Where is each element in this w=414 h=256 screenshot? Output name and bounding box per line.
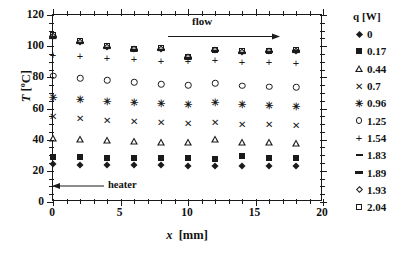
x-axis-tick-minor [283,199,284,204]
y-axis-tick-minor [49,93,54,94]
legend-item[interactable]: 1.89 [352,164,412,181]
data-point: ✕ [157,119,165,129]
legend-title: q [W] [353,10,412,22]
x-axis-tick-minor [134,199,135,204]
y-axis-tick-minor [320,23,325,24]
data-point: ✳ [265,101,273,111]
y-axis-tick-minor [320,38,325,39]
legend-item-label: 1.89 [367,167,386,179]
data-point [50,32,56,38]
data-point [185,82,192,89]
x-axis-tick-minor [67,199,68,204]
data-point [131,79,138,86]
x-axis-tick-major [188,199,189,206]
x-axis-tick-minor [134,11,135,16]
legend-item[interactable]: ✕0.7 [352,77,412,94]
y-axis-tick-minor [49,163,54,164]
data-points-layer: ✕✕✕✕✕✕✕✕✕✕✳✳✳✳✳✳✳✳✳✳++++++++++ [53,15,321,200]
x-axis-tick-major [53,9,54,16]
y-axis-tick-minor [320,54,325,55]
y-axis-tick-minor [320,194,325,195]
x-axis-tick-label: 10 [167,206,207,218]
x-axis-tick-minor [269,199,270,204]
chart-legend: q [W] 00.170.44✕0.7✳0.961.25+1.541.831.8… [352,10,412,216]
legend-item[interactable]: 1.83 [352,147,412,164]
heater-annotation: heater [52,180,162,194]
y-axis-tick-minor [320,147,325,148]
data-point [265,139,273,146]
x-axis-tick-minor [242,199,243,204]
x-axis-tick-label: 5 [100,206,140,218]
y-axis-tick-major [47,140,54,141]
y-axis-tick-minor [49,38,54,39]
data-point [240,163,245,168]
y-axis-tick-minor [49,62,54,63]
data-point: ✕ [292,121,300,131]
data-point [132,163,137,168]
y-axis-tick-minor [320,93,325,94]
data-point: + [293,57,299,68]
flow-label: flow [192,15,212,27]
flow-annotation: flow [168,16,288,40]
x-axis-tick-major [256,199,257,206]
data-point [239,153,245,159]
y-axis-tick-minor [49,124,54,125]
legend-item[interactable]: 0 [352,26,412,43]
data-point [159,163,164,168]
data-point [184,139,192,146]
x-axis-tick-minor [202,199,203,204]
y-axis-tick-minor [49,155,54,156]
legend-item-label: 1.25 [367,115,386,127]
legend-item[interactable]: 0.44 [352,60,412,77]
legend-item[interactable]: 1.25 [352,112,412,129]
data-point: ✳ [238,100,246,110]
y-axis-tick-minor [320,85,325,86]
legend-item-label: 0.7 [367,80,381,92]
x-axis-tick-minor [107,11,108,16]
legend-marker-icon [352,166,366,180]
data-point [238,138,246,145]
legend-item[interactable]: 1.93 [352,181,412,198]
legend-item[interactable]: 0.17 [352,43,412,60]
data-point [212,47,218,53]
x-axis-tick-minor [80,11,81,16]
data-point: ✳ [76,95,84,105]
legend-item-label: 0.96 [367,97,386,109]
data-point: + [77,51,83,62]
data-point: + [131,53,137,64]
legend-marker-icon: ✳ [352,96,366,110]
x-axis-tick-minor [67,11,68,16]
x-axis-title: x [mm] [52,228,322,243]
legend-marker-icon [352,62,366,76]
data-point: + [266,57,272,68]
legend-item[interactable]: 2.04 [352,198,412,215]
data-point [294,164,299,169]
x-axis-tick-label: 15 [235,206,275,218]
data-point [77,38,83,44]
y-axis-tick-minor [49,31,54,32]
y-axis-tick-label: 60 [0,102,44,114]
y-axis-tick-minor [320,163,325,164]
data-point [266,83,273,90]
plot-area: ✕✕✕✕✕✕✕✕✕✕✳✳✳✳✳✳✳✳✳✳++++++++++ [52,14,322,201]
y-axis-tick-label: 80 [0,70,44,82]
y-axis-tick-minor [49,101,54,102]
x-axis-tick-minor [215,199,216,204]
legend-item[interactable]: ✳0.96 [352,95,412,112]
y-axis-tick-minor [320,116,325,117]
data-point [76,136,84,143]
legend-marker-icon: ✕ [352,79,366,93]
data-point [239,48,245,54]
legend-item-label: 1.83 [367,149,386,161]
data-point [131,155,137,161]
data-point [104,155,110,161]
data-point [293,47,299,53]
y-axis-tick-minor [320,31,325,32]
data-point [266,48,272,54]
legend-rows: 00.170.44✕0.7✳0.961.25+1.541.831.891.932… [352,26,412,216]
y-axis-tick-label: 20 [0,164,44,176]
legend-item[interactable]: +1.54 [352,129,412,146]
x-axis-tick-major [53,199,54,206]
legend-item-label: 2.04 [367,201,386,213]
y-axis-tick-label: 40 [0,133,44,145]
